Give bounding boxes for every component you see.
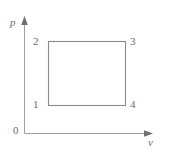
cycle-point-label-1: 1 <box>33 99 39 110</box>
pv-diagram-figure: p v 0 2 3 1 4 <box>0 0 169 157</box>
origin-label: 0 <box>13 125 19 136</box>
cycle-point-label-2: 2 <box>33 36 39 47</box>
p-axis-arrowhead-icon <box>21 16 28 25</box>
cycle-point-label-3: 3 <box>130 36 136 47</box>
cycle-rectangle <box>49 42 126 106</box>
v-axis-label: v <box>148 137 153 148</box>
p-axis-label: p <box>10 17 16 28</box>
diagram-canvas <box>0 0 169 157</box>
cycle-point-label-4: 4 <box>130 99 136 110</box>
